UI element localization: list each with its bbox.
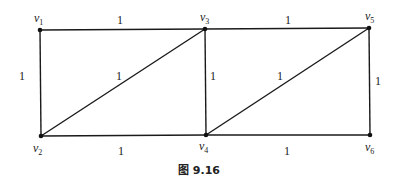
vertex-v1: [38, 28, 43, 33]
edge-weight-v3-v4: 1: [210, 69, 216, 83]
edge-weight-v2-v4: 1: [118, 144, 124, 158]
edge-v1-v3: [40, 29, 205, 30]
edges-group: [40, 28, 370, 136]
vertex-v6: [368, 133, 373, 138]
edge-weight-v1-v2: 1: [19, 69, 25, 83]
vertex-label-v6: v6: [365, 140, 374, 156]
edge-v1-v2: [40, 30, 41, 136]
edge-v4-v5: [206, 28, 369, 135]
edge-weight-v5-v6: 1: [375, 74, 381, 88]
vertex-label-v4: v4: [199, 139, 208, 155]
edge-weight-v3-v5: 1: [285, 13, 291, 27]
edge-v5-v6: [369, 28, 370, 135]
edge-weight-v1-v3: 1: [117, 13, 123, 27]
vertex-v4: [204, 133, 209, 138]
edge-v2-v4: [41, 135, 206, 136]
edge-weight-v2-v3: 1: [116, 69, 122, 83]
vertex-label-v5: v5: [365, 9, 374, 25]
vertex-label-v2: v2: [33, 141, 42, 157]
vertex-v5: [367, 26, 372, 31]
edge-v3-v4: [205, 29, 206, 135]
edge-v2-v3: [41, 29, 205, 136]
vertex-label-v1: v1: [34, 11, 43, 27]
edge-weight-v4-v5: 1: [277, 69, 283, 83]
vertex-v2: [39, 134, 44, 139]
graph-diagram: 111111111 v1v2v3v4v5v6 图 9.16: [0, 0, 398, 183]
figure-caption: 图 9.16: [178, 164, 220, 177]
vertex-v3: [203, 27, 208, 32]
edge-weight-v4-v6: 1: [284, 144, 290, 158]
vertex-label-v3: v3: [200, 10, 209, 26]
edge-v3-v5: [205, 28, 369, 29]
